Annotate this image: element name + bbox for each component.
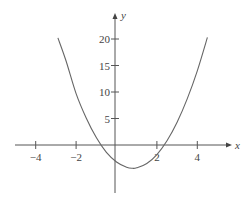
y-tick-label: 5 [105, 113, 111, 125]
x-axis: x −4−224 [15, 139, 240, 163]
x-axis-label: x [234, 139, 240, 151]
parabola-curve [58, 37, 207, 168]
x-axis-arrow-icon [226, 143, 232, 148]
x-tick-label: −2 [70, 151, 82, 163]
x-tick-label: −4 [30, 151, 42, 163]
x-tick-label: 4 [195, 151, 201, 163]
y-axis-label: y [120, 9, 126, 21]
y-ticks: 5101520 [99, 33, 119, 125]
y-axis-arrow-icon [113, 13, 118, 19]
y-tick-label: 20 [99, 33, 111, 45]
y-tick-label: 10 [99, 86, 111, 98]
y-tick-label: 15 [99, 60, 111, 72]
chart: x −4−224 y 5101520 [0, 0, 242, 197]
